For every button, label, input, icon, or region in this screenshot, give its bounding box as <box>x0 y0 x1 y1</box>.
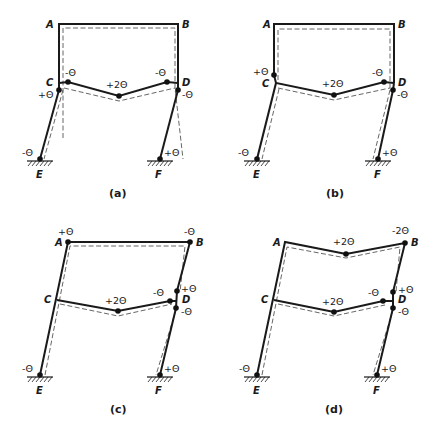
node-label-a: A <box>272 237 281 248</box>
rotation-label: -Θ <box>184 226 195 237</box>
column-ce <box>40 90 59 159</box>
node-label-c: C <box>44 294 52 305</box>
panel-d: A B C D E F +2Θ -2Θ +Θ +2Θ -Θ -Θ -Θ +Θ (… <box>239 225 419 416</box>
plastic-hinge <box>175 87 181 93</box>
rotation-label: -Θ <box>397 89 408 100</box>
node-label-f: F <box>373 385 380 396</box>
panel-caption: (d) <box>325 403 343 416</box>
plastic-hinge <box>271 72 277 78</box>
plastic-hinge <box>390 289 396 295</box>
node-label-b: B <box>411 237 419 248</box>
panel-caption: (b) <box>326 187 344 200</box>
plastic-hinge <box>402 240 408 246</box>
rotation-label: -Θ <box>65 67 76 78</box>
rotation-label: -Θ <box>368 287 379 298</box>
node-label-c: C <box>262 78 270 89</box>
original-col-dashed <box>44 90 63 159</box>
rotation-label: +Θ <box>382 147 397 158</box>
node-label-d: D <box>398 77 406 88</box>
plastic-hinge <box>380 298 386 304</box>
rotation-label: -Θ <box>398 306 409 317</box>
plastic-hinge <box>390 87 396 93</box>
frame-mechanism-diagram: A B C D E F -Θ +2Θ -Θ +Θ -Θ -Θ +Θ (a) A <box>0 0 436 430</box>
node-label-d: D <box>182 294 190 305</box>
rotation-label: +Θ <box>398 284 413 295</box>
outer-frame <box>40 242 190 375</box>
rotation-label: -Θ <box>153 287 164 298</box>
plastic-hinge <box>56 87 62 93</box>
node-label-a: A <box>45 19 54 30</box>
node-label-f: F <box>155 385 162 396</box>
rotation-label: -Θ <box>182 89 193 100</box>
plastic-hinge <box>115 308 121 314</box>
node-label-f: F <box>155 169 162 180</box>
column-ce <box>257 83 276 159</box>
node-label-d: D <box>182 77 190 88</box>
rotation-label: -Θ <box>239 363 250 374</box>
panel-caption: (a) <box>109 187 126 200</box>
rotation-label: +2Θ <box>322 78 343 89</box>
plastic-hinge <box>390 305 396 311</box>
rotation-label: +Θ <box>181 283 196 294</box>
outer-frame <box>257 242 405 375</box>
plastic-hinge <box>331 309 337 315</box>
rotation-label: +2Θ <box>106 79 127 90</box>
rotation-label: -Θ <box>372 67 383 78</box>
rotation-label: -Θ <box>22 363 33 374</box>
rotation-label: +Θ <box>164 363 179 374</box>
node-label-a: A <box>54 237 63 248</box>
node-label-b: B <box>182 19 190 30</box>
node-label-e: E <box>36 169 43 180</box>
panel-c: A B C D E F +Θ -Θ +Θ +2Θ -Θ -Θ -Θ +Θ (c) <box>22 226 204 416</box>
node-label-e: E <box>36 385 43 396</box>
rotation-label: +Θ <box>253 66 268 77</box>
rotation-label: +Θ <box>164 147 179 158</box>
rotation-label: +Θ <box>381 363 396 374</box>
plastic-hinge <box>173 305 179 311</box>
node-label-c: C <box>46 77 54 88</box>
rotation-label: -Θ <box>22 147 33 158</box>
node-label-e: E <box>253 385 260 396</box>
node-label-a: A <box>262 19 271 30</box>
node-label-e: E <box>253 169 260 180</box>
rotation-label: +Θ <box>58 226 73 237</box>
panel-caption: (c) <box>110 403 127 416</box>
node-label-b: B <box>398 19 406 30</box>
plastic-hinge <box>65 239 71 245</box>
rotation-label: +2Θ <box>322 296 343 307</box>
rotation-label: -Θ <box>238 147 249 158</box>
node-label-f: F <box>374 169 381 180</box>
node-label-d: D <box>398 294 406 305</box>
panel-a: A B C D E F -Θ +2Θ -Θ +Θ -Θ -Θ +Θ (a) <box>22 19 193 200</box>
rotation-label: -Θ <box>181 306 192 317</box>
plastic-hinge <box>65 79 71 85</box>
plastic-hinge <box>187 239 193 245</box>
rotation-label: +2Θ <box>333 236 354 247</box>
node-label-c: C <box>261 294 269 305</box>
rotation-label: +2Θ <box>105 295 126 306</box>
plastic-hinge <box>167 298 173 304</box>
rotation-label: +Θ <box>38 89 53 100</box>
rotation-label: -2Θ <box>392 225 409 236</box>
plastic-hinge <box>116 93 122 99</box>
plastic-hinge <box>164 79 170 85</box>
plastic-hinge <box>174 288 180 294</box>
plastic-hinge <box>343 251 349 257</box>
node-label-b: B <box>196 237 204 248</box>
plastic-hinge <box>381 79 387 85</box>
rotation-label: -Θ <box>155 67 166 78</box>
panel-b: A B C D E F +Θ +2Θ -Θ -Θ -Θ +Θ (b) <box>238 19 408 200</box>
plastic-hinge <box>331 92 337 98</box>
